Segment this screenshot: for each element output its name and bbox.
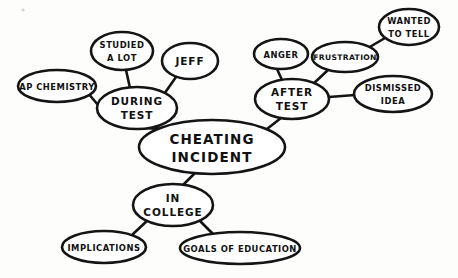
node-cheating-incident-line2: INCIDENT [172,149,253,165]
node-cheating-incident-line1: CHEATING [169,131,254,147]
node-after-test-shape [255,79,329,119]
node-goals-of-education-label: GOALS OF EDUCATION [183,244,297,254]
node-anger-label: ANGER [263,50,298,60]
mindmap-canvas: CHEATING INCIDENT DURING TEST AFTER TEST… [0,0,458,278]
node-frustration-label: FRUSTRATION [313,53,377,62]
node-dismissed-idea-shape [354,76,432,112]
node-implications[interactable]: IMPLICATIONS [62,231,146,263]
node-anger[interactable]: ANGER [254,39,308,69]
node-wanted-to-tell-shape [379,9,439,45]
node-studied-a-lot-line1: STUDIED [100,40,145,50]
node-during-test-line2: TEST [121,109,154,121]
node-after-test[interactable]: AFTER TEST [255,79,329,119]
node-wanted-to-tell-line2: TO TELL [388,29,430,39]
edge-center-after-test [267,118,281,129]
node-wanted-to-tell[interactable]: WANTED TO TELL [379,9,439,45]
node-ap-chemistry[interactable]: AP CHEMISTRY [18,70,96,102]
mindmap-svg: CHEATING INCIDENT DURING TEST AFTER TEST… [0,0,458,278]
node-cheating-incident-shape [139,120,285,174]
node-in-college-line1: IN [166,192,181,204]
node-studied-a-lot[interactable]: STUDIED A LOT [91,32,153,70]
node-studied-a-lot-shape [91,32,153,70]
node-during-test-line1: DURING [111,95,163,107]
node-ap-chemistry-label: AP CHEMISTRY [19,82,95,92]
node-goals-of-education[interactable]: GOALS OF EDUCATION [180,232,300,264]
node-cheating-incident[interactable]: CHEATING INCIDENT [139,120,285,174]
node-studied-a-lot-line2: A LOT [107,53,137,63]
node-dismissed-idea-line2: IDEA [381,96,405,106]
node-during-test[interactable]: DURING TEST [97,87,177,129]
node-frustration[interactable]: FRUSTRATION [312,42,378,72]
edge-after-test-anger [277,69,282,80]
node-during-test-shape [97,87,177,129]
node-wanted-to-tell-line1: WANTED [387,16,431,26]
node-jeff[interactable]: JEFF [162,43,218,79]
node-in-college-shape [133,184,213,226]
paper-speck [21,8,24,11]
node-jeff-label: JEFF [174,55,204,67]
edge-in-college-implications [133,220,148,234]
node-after-test-line1: AFTER [271,86,313,98]
node-after-test-line2: TEST [276,100,309,112]
node-in-college-line2: COLLEGE [143,206,202,218]
node-in-college[interactable]: IN COLLEGE [133,184,213,226]
edge-after-test-dismissed-idea [329,95,355,97]
node-dismissed-idea[interactable]: DISMISSED IDEA [354,76,432,112]
node-dismissed-idea-line1: DISMISSED [365,83,421,93]
edge-during-test-studied-a-lot [126,70,130,88]
node-implications-label: IMPLICATIONS [67,243,140,253]
